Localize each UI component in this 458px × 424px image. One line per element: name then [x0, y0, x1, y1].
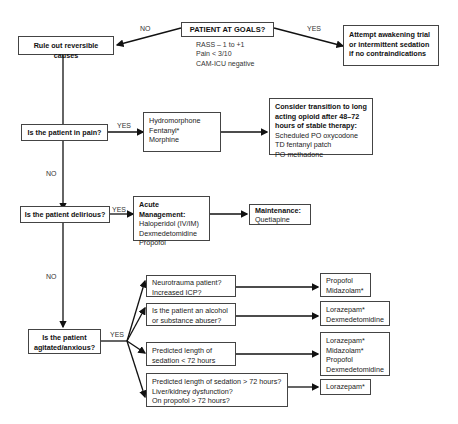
result-med: Lorazepam*	[326, 305, 384, 315]
edge-label-goals-yes: YES	[307, 25, 321, 32]
edge-label-agitated-yes: YES	[110, 331, 124, 338]
node-patient-in-pain: Is the patient in pain?	[21, 124, 108, 141]
node-maintenance: Maintenance: Quetiapine	[249, 204, 311, 225]
med-dexmedetomidine: Dexmedetomidine	[139, 229, 204, 239]
result-med: Lorazepam*	[326, 382, 365, 392]
condition-line: Neurotrauma patient?	[152, 278, 230, 288]
opioid-option: PO methadone	[275, 150, 367, 160]
condition-line: Predicted length of	[152, 346, 230, 356]
condition-neurotrauma: Neurotrauma patient? Increased ICP?	[146, 275, 236, 297]
node-acute-management: Acute Management: Haloperidol (IV/IM) De…	[133, 196, 210, 241]
long-acting-heading: acting opioid after 48–72	[275, 112, 367, 122]
condition-line: Increased ICP?	[152, 288, 230, 298]
med-propofol: Propofol	[139, 238, 204, 248]
node-pain-medications: Hydromorphone Fentanyl* Morphine	[143, 112, 221, 152]
node-patient-agitated: Is the patient agitated/anxious?	[28, 329, 101, 354]
awakening-line: Attempt awakening trial	[349, 30, 433, 40]
edge-label-delirious-yes: YES	[112, 206, 126, 213]
condition-line: Liver/kidney dysfunction?	[152, 387, 282, 397]
acute-heading: Acute Management:	[139, 200, 204, 219]
node-patient-at-goals: PATIENT AT GOALS?	[181, 22, 274, 37]
result-med: Midazolam*	[326, 346, 384, 356]
agitated-title: Is the patient	[32, 333, 97, 343]
edge-label-goals-no: NO	[140, 25, 151, 32]
node-patient-delirious: Is the patient delirious?	[20, 206, 110, 223]
node-rule-out-reversible: Rule out reversible causes	[18, 36, 114, 55]
result-med: Lorazepam*	[326, 336, 384, 346]
node-long-acting-opioid: Consider transition to long acting opioi…	[269, 98, 373, 155]
condition-line: or substance abuser?	[152, 316, 230, 326]
condition-line: Predicted length of sedation > 72 hours?	[152, 377, 282, 387]
result-sedation-under-72h: Lorazepam* Midazolam* Propofol Dexmedeto…	[320, 332, 390, 376]
result-sedation-over-72h: Lorazepam*	[320, 379, 371, 395]
condition-sedation-over-72h: Predicted length of sedation > 72 hours?…	[146, 373, 288, 407]
med-hydromorphone: Hydromorphone	[149, 116, 215, 126]
condition-line: On propofol > 72 hours?	[152, 396, 282, 406]
edge-label-pain-yes: YES	[117, 122, 131, 129]
criteria-rass: RASS – 1 to +1	[196, 40, 254, 49]
result-neurotrauma: Propofol Midazolam*	[320, 273, 371, 297]
criteria-pain: Pain < 3/10	[196, 49, 254, 58]
criteria-cam-icu: CAM-ICU negative	[196, 59, 254, 68]
condition-line: sedation < 72 hours	[152, 356, 230, 366]
condition-sedation-under-72h: Predicted length of sedation < 72 hours	[146, 342, 236, 366]
agitated-title: agitated/anxious?	[32, 343, 97, 353]
result-substance-abuser: Lorazepam* Dexmedetomidine	[320, 301, 390, 326]
med-haloperidol: Haloperidol (IV/IM)	[139, 219, 204, 229]
opioid-option: Scheduled PO oxycodone	[275, 131, 367, 141]
med-morphine: Morphine	[149, 135, 215, 145]
result-med: Midazolam*	[326, 286, 365, 296]
opioid-option: TD fentanyl patch	[275, 140, 367, 150]
med-quetiapine: Quetiapine	[255, 216, 305, 225]
result-med: Propofol	[326, 276, 365, 286]
awakening-line: if no contraindications	[349, 49, 433, 59]
goals-criteria: RASS – 1 to +1 Pain < 3/10 CAM-ICU negat…	[196, 40, 254, 68]
result-med: Dexmedetomidine	[326, 315, 384, 325]
node-awakening-trial: Attempt awakening trial or intermittent …	[343, 25, 439, 66]
med-fentanyl: Fentanyl*	[149, 126, 215, 136]
long-acting-heading: hours of stable therapy:	[275, 121, 367, 131]
condition-substance-abuser: Is the patient an alcohol or substance a…	[146, 303, 236, 326]
edge-label-pain-no: NO	[46, 170, 57, 177]
long-acting-heading: Consider transition to long	[275, 102, 367, 112]
awakening-line: or intermittent sedation	[349, 40, 433, 50]
edge-label-delirious-no: NO	[46, 273, 57, 280]
result-med: Propofol	[326, 355, 384, 365]
result-med: Dexmedetomidine	[326, 365, 384, 375]
condition-line: Is the patient an alcohol	[152, 306, 230, 316]
